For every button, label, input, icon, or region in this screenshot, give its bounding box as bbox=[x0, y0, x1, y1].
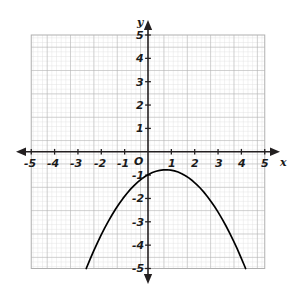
y-tick-label-neg5: -5 bbox=[132, 263, 144, 274]
coordinate-plane-figure: -5 -4 -3 -2 -1 1 2 3 4 5 5 4 3 2 1 -1 -2… bbox=[0, 0, 293, 302]
x-tick-label-1: 1 bbox=[168, 158, 176, 169]
y-tick-label-neg4: -4 bbox=[132, 240, 144, 251]
x-tick-label-2: 2 bbox=[191, 158, 199, 169]
x-tick-label-4: 4 bbox=[238, 158, 246, 169]
x-tick-label-neg3: -3 bbox=[70, 158, 82, 169]
x-tick-label-3: 3 bbox=[215, 158, 223, 169]
x-axis-label: x bbox=[280, 157, 287, 168]
x-tick-label-neg2: -2 bbox=[94, 158, 106, 169]
y-tick-label-2: 2 bbox=[136, 100, 144, 111]
y-tick-label-neg2: -2 bbox=[132, 193, 144, 204]
y-tick-label-5: 5 bbox=[136, 30, 144, 41]
y-tick-label-neg3: -3 bbox=[132, 217, 144, 228]
x-tick-label-neg1: -1 bbox=[117, 158, 129, 169]
graph-canvas bbox=[0, 0, 293, 302]
x-tick-label-neg4: -4 bbox=[47, 158, 59, 169]
x-tick-label-5: 5 bbox=[261, 158, 269, 169]
y-tick-label-1: 1 bbox=[136, 123, 144, 134]
y-tick-label-3: 3 bbox=[136, 77, 144, 88]
origin-label: O bbox=[134, 156, 143, 167]
x-tick-label-neg5: -5 bbox=[24, 158, 36, 169]
y-tick-label-4: 4 bbox=[136, 53, 144, 64]
y-tick-label-neg1: -1 bbox=[132, 170, 144, 181]
y-axis-label: y bbox=[137, 17, 143, 28]
